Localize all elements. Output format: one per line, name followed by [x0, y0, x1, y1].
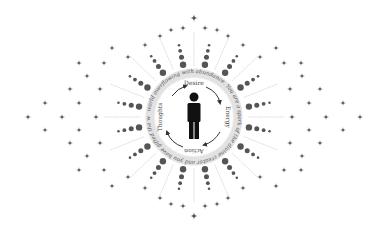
label-action: Action [184, 148, 205, 155]
mandala-illustration: world overflowing with abundance. You ar… [0, 0, 388, 234]
label-thoughts: Thoughts [156, 103, 164, 132]
label-desire: Desire [184, 79, 204, 86]
label-energy: Energy [224, 106, 232, 129]
